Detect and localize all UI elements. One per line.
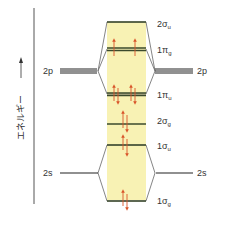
atomic-orbital-2p-right <box>155 69 193 73</box>
label-1pi-u: 1πu <box>157 90 172 101</box>
label-2p-left: 2p <box>43 66 53 76</box>
label-1sigma-u: 1σu <box>157 141 171 152</box>
label-2sigma-g: 2σg <box>157 116 171 127</box>
label-1pi-g: 1πg <box>157 45 172 56</box>
energy-label-text: エネルギー <box>16 95 26 140</box>
energy-axis-label: エネルギー <box>16 95 26 140</box>
label-2sigma-u: 2σu <box>157 19 171 30</box>
arrow-up-icon <box>19 57 23 78</box>
mo-diagram: エネルギー <box>0 0 225 232</box>
atomic-orbital-2p-left <box>60 69 97 73</box>
label-2s-left: 2s <box>43 168 53 178</box>
label-2s-right: 2s <box>197 168 207 178</box>
label-1sigma-g: 1σg <box>157 196 171 207</box>
highlight-band <box>107 22 146 200</box>
label-2p-right: 2p <box>197 66 207 76</box>
